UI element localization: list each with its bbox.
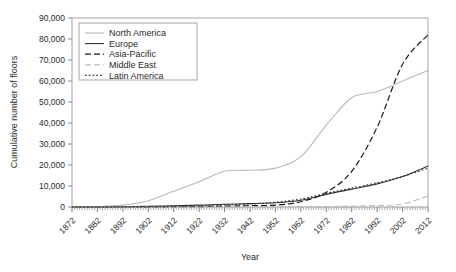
y-tick-label: 0 [60, 202, 65, 212]
y-tick-label: 90,000 [39, 13, 65, 23]
x-tick-label: 1932 [210, 215, 231, 236]
y-axis-title: Cumulative number of floors [9, 55, 19, 168]
x-tick-label: 1962 [286, 215, 307, 236]
legend-label-latin-america: Latin America [109, 71, 164, 81]
legend-label-middle-east: Middle East [109, 60, 157, 70]
x-tick-label: 1922 [184, 215, 205, 236]
chart-legend: North AmericaEuropeAsia-PacificMiddle Ea… [79, 23, 197, 81]
legend-label-asia-pacific: Asia-Pacific [109, 49, 157, 59]
x-axis-title: Year [241, 252, 259, 262]
y-tick-label: 10,000 [39, 181, 65, 191]
line-chart: 010,00020,00030,00040,00050,00060,00070,… [0, 0, 456, 272]
x-tick-label: 1972 [311, 215, 332, 236]
x-tick-label: 1982 [337, 215, 358, 236]
legend-label-north-america: North America [109, 28, 166, 38]
y-axis-ticks: 010,00020,00030,00040,00050,00060,00070,… [39, 13, 72, 212]
x-tick-label: 1872 [57, 215, 78, 236]
y-tick-label: 70,000 [39, 55, 65, 65]
y-tick-label: 30,000 [39, 139, 65, 149]
y-tick-label: 60,000 [39, 76, 65, 86]
y-tick-label: 50,000 [39, 97, 65, 107]
x-tick-label: 1912 [159, 215, 180, 236]
x-tick-label: 1902 [133, 215, 154, 236]
x-tick-label: 1882 [82, 215, 103, 236]
x-tick-label: 1952 [260, 215, 281, 236]
chart-figure: 010,00020,00030,00040,00050,00060,00070,… [0, 0, 456, 272]
x-axis-ticks: 1872188218921902191219221932194219521962… [57, 207, 434, 236]
x-tick-label: 2012 [413, 215, 434, 236]
y-tick-label: 40,000 [39, 118, 65, 128]
x-tick-label: 1892 [108, 215, 129, 236]
x-tick-label: 1942 [235, 215, 256, 236]
y-tick-label: 20,000 [39, 160, 65, 170]
x-tick-label: 1992 [362, 215, 383, 236]
legend-label-europe: Europe [109, 39, 138, 49]
y-tick-label: 80,000 [39, 34, 65, 44]
x-tick-label: 2002 [388, 215, 409, 236]
